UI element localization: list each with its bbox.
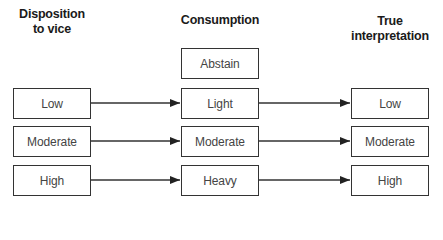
box-true-moderate: Moderate [351, 126, 429, 157]
label-disposition-high: High [40, 174, 64, 188]
label-true-low: Low [379, 97, 401, 111]
box-consumption-abstain: Abstain [181, 48, 259, 79]
label-true-moderate: Moderate [365, 135, 415, 149]
label-consumption-moderate: Moderate [195, 135, 245, 149]
box-true-low: Low [351, 88, 429, 119]
label-consumption-light: Light [207, 97, 233, 111]
box-consumption-heavy: Heavy [181, 165, 259, 196]
label-disposition-moderate: Moderate [27, 135, 77, 149]
box-disposition-high: High [13, 165, 91, 196]
box-consumption-light: Light [181, 88, 259, 119]
label-true-high: High [378, 174, 402, 188]
box-disposition-moderate: Moderate [13, 126, 91, 157]
label-consumption-abstain: Abstain [200, 57, 239, 71]
box-disposition-low: Low [13, 88, 91, 119]
label-consumption-heavy: Heavy [203, 174, 237, 188]
box-true-high: High [351, 165, 429, 196]
label-disposition-low: Low [41, 97, 63, 111]
box-consumption-moderate: Moderate [181, 126, 259, 157]
